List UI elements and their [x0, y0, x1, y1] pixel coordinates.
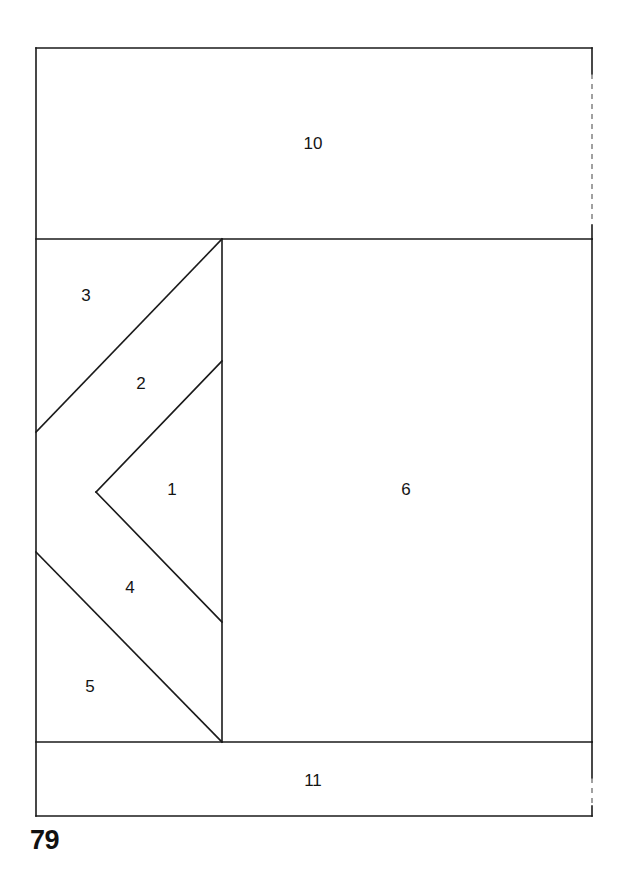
geometric-dissection-figure: 1 2 3 4 5 6 10 11: [0, 0, 627, 869]
region-polygons: [36, 48, 592, 816]
region-label-11: 11: [304, 771, 322, 790]
region-label-2: 2: [136, 374, 145, 393]
region-label-5: 5: [85, 677, 94, 696]
page-canvas: 1 2 3 4 5 6 10 11 79: [0, 0, 627, 869]
region-label-3: 3: [81, 286, 90, 305]
region-label-10: 10: [304, 134, 323, 153]
region-label-1: 1: [167, 480, 176, 499]
region-label-6: 6: [401, 480, 410, 499]
page-number: 79: [30, 827, 59, 854]
region-label-4: 4: [125, 578, 134, 597]
